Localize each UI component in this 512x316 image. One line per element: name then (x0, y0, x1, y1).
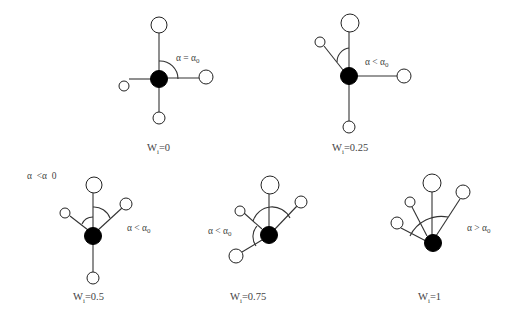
stray-angle-annotation: α <α 0 (27, 171, 57, 181)
neighbor-node-top (341, 14, 359, 32)
neighbor-node-right (397, 69, 411, 83)
neighbor-node-mid-left (405, 197, 415, 207)
neighbor-node-right (199, 70, 213, 84)
edge-upper-right (436, 199, 460, 236)
neighbor-node-top (423, 174, 441, 192)
neighbor-node-upper-right (120, 198, 132, 210)
angle-arc-right (93, 207, 110, 218)
center-node (425, 235, 442, 252)
diagram-canvas: α = α0 Wi=0 α < α0 Wi=0.25 α <α 0 α < α0… (0, 0, 512, 316)
neighbor-node-upper-right (456, 185, 470, 199)
neighbor-node-far-left (391, 217, 403, 229)
neighbor-node-upper-right (295, 196, 307, 208)
neighbor-node-lower-left (229, 249, 243, 263)
neighbor-node-top (261, 176, 279, 194)
neighbor-node-bottom (153, 112, 165, 124)
panel-w1: α > α0 Wi=1 (391, 174, 491, 305)
node-angle-diagram: α = α0 Wi=0 α < α0 Wi=0.25 α <α 0 α < α0… (0, 0, 512, 316)
weight-label: Wi=0.5 (73, 291, 104, 305)
neighbor-node-upper-left (235, 206, 245, 216)
neighbor-node-upper-left (60, 208, 70, 218)
neighbor-node-bottom (87, 272, 99, 284)
angle-label: α > α0 (467, 223, 491, 235)
weight-label: Wi=0.25 (332, 142, 368, 156)
weight-label: Wi=0 (147, 142, 170, 156)
weight-label: Wi=0.75 (230, 291, 266, 305)
edge-upper-left (70, 216, 88, 230)
panel-w05: α < α0 Wi=0.5 (60, 177, 151, 305)
neighbor-node-top (151, 17, 167, 33)
neighbor-node-upper-left (315, 37, 325, 47)
angle-label: α < α0 (127, 223, 151, 235)
angle-arc-left (82, 217, 93, 224)
edge-mid-left (412, 207, 427, 236)
edge-lower-left (242, 240, 262, 252)
neighbor-node-left (119, 81, 129, 91)
panel-w025: α < α0 Wi=0.25 (315, 14, 411, 156)
center-node (261, 227, 278, 244)
edge-upper-right (97, 208, 122, 231)
panel-w075: α < α0 Wi=0.75 (208, 176, 307, 305)
neighbor-node-top (86, 177, 102, 193)
panel-w0: α = α0 Wi=0 (119, 17, 213, 156)
neighbor-node-bottom (343, 121, 355, 133)
edge-upper-left (324, 46, 343, 70)
angle-label: α = α0 (176, 53, 200, 65)
center-node (341, 68, 358, 85)
edge-upper-right (275, 206, 297, 229)
center-node (151, 71, 168, 88)
angle-arc (337, 48, 349, 62)
center-node (85, 228, 102, 245)
angle-label: α < α0 (365, 57, 389, 69)
angle-label: α < α0 (208, 226, 232, 238)
weight-label: Wi=1 (418, 291, 441, 305)
